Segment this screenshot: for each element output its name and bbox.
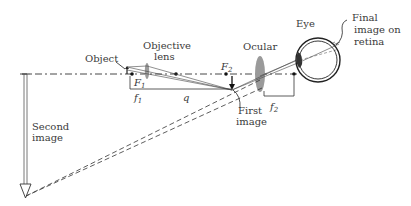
- label-retina: retina: [354, 36, 384, 47]
- label-first-image: image: [236, 116, 267, 127]
- first-image-arrow: [229, 76, 235, 90]
- label-first: First: [238, 105, 262, 116]
- label-q: q: [183, 92, 189, 103]
- second-image-arrow: [20, 74, 31, 198]
- label-second-image: image: [32, 132, 63, 143]
- label-image-on: image on: [354, 24, 401, 35]
- focal-point-f1: [130, 72, 134, 76]
- label-f1: f1: [133, 92, 142, 105]
- label-object: Object: [85, 53, 118, 64]
- label-F2: F2: [220, 61, 233, 74]
- label-final: Final: [352, 12, 378, 23]
- label-ocular: Ocular: [243, 41, 277, 52]
- label-F1: F1: [133, 77, 145, 90]
- label-eye: Eye: [296, 18, 315, 29]
- label-objective-lens: lens: [154, 51, 175, 62]
- label-second: Second: [32, 121, 70, 132]
- focal-point-ocular-right: [292, 72, 296, 76]
- diagram-canvas: Object Objective lens Ocular Eye Final i…: [0, 0, 411, 206]
- eye: [296, 38, 340, 82]
- final-image-pointer: [336, 20, 347, 45]
- ocular-lens: [255, 56, 265, 92]
- label-objective: Objective: [143, 40, 191, 51]
- microscope-diagram: Object Objective lens Ocular Eye Final i…: [0, 0, 411, 206]
- label-f2: f2: [269, 101, 279, 114]
